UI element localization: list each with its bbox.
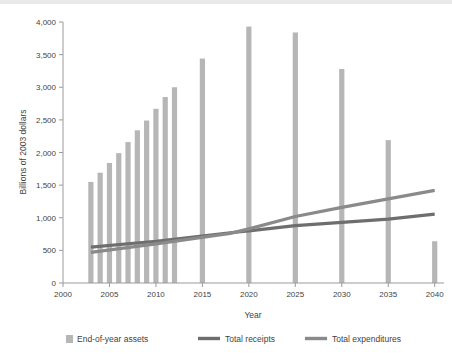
- y-tick-label: 2,000: [36, 149, 57, 158]
- y-axis-ticks: 05001,0001,5002,0002,5003,0003,5004,000: [36, 18, 63, 288]
- legend-label: Total expenditures: [332, 334, 401, 344]
- bar: [125, 142, 130, 283]
- x-axis-ticks: 200020052010201520202025203020352040: [54, 283, 444, 299]
- x-tick-label: 2035: [379, 290, 397, 299]
- x-tick-label: 2025: [286, 290, 304, 299]
- x-axis-title: Year: [244, 310, 261, 320]
- y-tick-label: 2,500: [36, 116, 57, 125]
- y-tick-label: 4,000: [36, 18, 57, 27]
- y-tick-label: 500: [43, 246, 57, 255]
- x-tick-label: 2000: [54, 290, 72, 299]
- x-tick-label: 2015: [193, 290, 211, 299]
- y-tick-label: 3,500: [36, 51, 57, 60]
- chart-legend: End-of-year assetsTotal receiptsTotal ex…: [66, 334, 401, 344]
- bar: [153, 109, 158, 283]
- bar: [432, 241, 437, 283]
- y-tick-label: 0: [52, 279, 57, 288]
- bar: [163, 97, 168, 283]
- legend-label: Total receipts: [225, 334, 275, 344]
- y-tick-label: 1,500: [36, 181, 57, 190]
- y-axis-title: Billions of 2003 dollars: [18, 109, 28, 194]
- bar: [386, 140, 391, 283]
- x-tick-label: 2030: [333, 290, 351, 299]
- legend-label: End-of-year assets: [77, 334, 148, 344]
- legend-swatch: [66, 335, 73, 343]
- x-tick-label: 2010: [147, 290, 165, 299]
- bar: [135, 130, 140, 283]
- bar: [98, 173, 103, 283]
- bar: [144, 121, 149, 283]
- bar: [200, 59, 205, 283]
- bar: [339, 69, 344, 283]
- bar: [293, 32, 298, 283]
- bar: [246, 27, 251, 283]
- chart-canvas: 05001,0001,5002,0002,5003,0003,5004,000 …: [0, 0, 452, 358]
- x-tick-label: 2005: [101, 290, 119, 299]
- bar: [172, 87, 177, 283]
- bar: [116, 153, 121, 283]
- y-tick-label: 3,000: [36, 83, 57, 92]
- line-series-group: [91, 190, 435, 252]
- x-tick-label: 2040: [426, 290, 444, 299]
- bar: [88, 182, 93, 283]
- line-total-receipts: [91, 214, 435, 247]
- x-tick-label: 2020: [240, 290, 258, 299]
- bar: [107, 163, 112, 283]
- y-tick-label: 1,000: [36, 214, 57, 223]
- chart-figure: 05001,0001,5002,0002,5003,0003,5004,000 …: [0, 0, 452, 358]
